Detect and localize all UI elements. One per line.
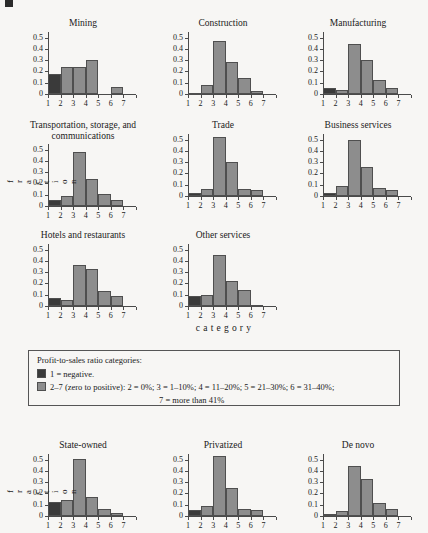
x-tick-mark	[323, 95, 324, 98]
chart-bar	[348, 466, 361, 516]
chart-title: Other services	[166, 230, 280, 242]
y-tick-label: 0.5	[173, 246, 183, 254]
plot-area: 00.10.20.30.40.51234567	[166, 30, 280, 108]
chart-bar	[201, 295, 214, 306]
x-tick-mark	[411, 95, 412, 98]
x-tick-mark	[123, 207, 124, 210]
x-tick-mark	[323, 197, 324, 200]
chart-bar	[73, 67, 86, 94]
x-tick-label: 5	[236, 312, 240, 320]
chart-bar	[226, 281, 239, 306]
chart-bar	[238, 290, 251, 306]
page-corner-mark	[5, 0, 13, 7]
x-tick-mark	[348, 95, 349, 98]
chart-bar	[336, 90, 349, 94]
chart-bar	[251, 305, 264, 307]
x-tick-mark	[336, 197, 337, 200]
y-tick-label: 0.2	[173, 67, 183, 75]
chart-bar	[86, 179, 99, 206]
plot-area: 00.10.20.30.40.51234567	[166, 452, 280, 530]
y-tick-label: 0.1	[33, 79, 43, 87]
x-tick-label: 5	[236, 100, 240, 108]
x-tick-mark	[373, 197, 374, 200]
x-tick-mark	[263, 307, 264, 310]
chart-bar	[373, 503, 386, 516]
x-tick-label: 6	[109, 100, 113, 108]
x-tick-mark	[398, 95, 399, 98]
x-tick-mark	[386, 95, 387, 98]
x-tick-label: 7	[121, 212, 125, 220]
x-tick-mark	[263, 95, 264, 98]
x-tick-mark	[226, 197, 227, 200]
chart-bar	[386, 190, 399, 196]
x-tick-label: 5	[236, 522, 240, 530]
x-tick-label: 3	[211, 312, 215, 320]
y-tick-label: 0.1	[173, 181, 183, 189]
x-tick-mark	[373, 517, 374, 520]
x-tick-label: 3	[71, 312, 75, 320]
chart-title: De novo	[301, 440, 415, 452]
y-tick-label: 0.4	[173, 257, 183, 265]
x-tick-mark	[61, 95, 62, 98]
chart-bar	[386, 88, 399, 94]
x-tick-mark	[48, 307, 49, 310]
chart-bar	[61, 300, 74, 306]
x-tick-mark	[386, 197, 387, 200]
x-tick-mark	[336, 517, 337, 520]
x-tick-label: 5	[371, 100, 375, 108]
chart-bar	[336, 186, 349, 196]
x-tick-mark	[251, 95, 252, 98]
y-tick-label: 0.4	[33, 45, 43, 53]
x-tick-mark	[123, 95, 124, 98]
y-tick-label: 0.1	[173, 79, 183, 87]
x-tick-label: 6	[109, 312, 113, 320]
x-tick-label: 5	[236, 202, 240, 210]
x-tick-label: 1	[321, 100, 325, 108]
x-tick-mark	[201, 517, 202, 520]
x-tick-label: 6	[249, 202, 253, 210]
y-axis-line	[323, 134, 324, 196]
x-tick-label: 6	[109, 522, 113, 530]
x-tick-mark	[411, 197, 412, 200]
chart-panel: Privatized00.10.20.30.40.51234567	[166, 440, 280, 530]
y-tick-label: 0.5	[173, 34, 183, 42]
y-axis-title-letter: c	[33, 446, 42, 533]
x-tick-mark	[201, 197, 202, 200]
y-tick-label: 0	[179, 90, 183, 98]
chart-bar	[73, 265, 86, 306]
x-tick-label: 4	[224, 522, 228, 530]
y-tick-label: 0.2	[33, 279, 43, 287]
y-tick-label: 0.5	[308, 456, 318, 464]
chart-bar	[213, 41, 226, 94]
chart-bar	[361, 60, 374, 94]
y-tick-label: 0.5	[173, 136, 183, 144]
legend-box: Profit-to-sales ratio categories: 1 = ne…	[28, 350, 400, 406]
x-tick-mark	[226, 307, 227, 310]
y-tick-label: 0	[314, 192, 318, 200]
chart-bar	[188, 193, 201, 196]
chart-panel: Hotels and restaurants00.10.20.30.40.512…	[26, 230, 140, 320]
x-tick-mark	[98, 307, 99, 310]
y-tick-label: 0.3	[173, 158, 183, 166]
y-tick-label: 0.4	[173, 467, 183, 475]
legend-row-positive: 2–7 (zero to positive): 2 = 0%; 3 = 1–10…	[37, 382, 334, 392]
y-axis-title-bottom: fraction	[6, 446, 78, 533]
chart-bar	[98, 509, 111, 516]
y-tick-label: 0.1	[173, 501, 183, 509]
y-tick-label: 0.3	[308, 478, 318, 486]
legend-label-negative: 1 = negative.	[50, 369, 94, 379]
y-axis-line	[188, 454, 189, 516]
x-tick-mark	[111, 517, 112, 520]
plot-area: 00.10.20.30.40.51234567	[301, 132, 415, 210]
y-axis-title-top: fraction	[6, 136, 78, 228]
chart-bar	[361, 167, 374, 196]
legend-label-positive: 2–7 (zero to positive): 2 = 0%; 3 = 1–10…	[50, 382, 334, 392]
x-tick-mark	[123, 517, 124, 520]
y-tick-label: 0.3	[173, 478, 183, 486]
x-tick-mark	[188, 307, 189, 310]
x-tick-label: 5	[371, 202, 375, 210]
y-tick-label: 0.2	[173, 169, 183, 177]
x-tick-label: 6	[384, 100, 388, 108]
y-tick-label: 0.2	[308, 67, 318, 75]
chart-bar	[201, 506, 214, 516]
